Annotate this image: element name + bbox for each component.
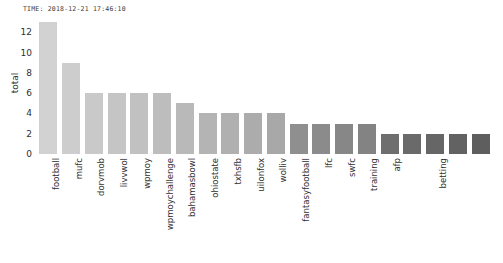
- x-axis-tick-slot: swfc: [333, 158, 356, 258]
- x-axis-tick-slot: wolliv: [265, 158, 288, 258]
- x-axis-tick-slot: [447, 158, 470, 258]
- x-axis-tick-slot: uilonfox: [242, 158, 265, 258]
- x-axis-tick-labels: footballmufcdorvmoblivvwolwpmoywpmoychal…: [37, 158, 492, 258]
- x-axis-tick-slot: ohiostate: [196, 158, 219, 258]
- bar: [267, 113, 285, 154]
- x-axis-tick-slot: [401, 158, 424, 258]
- y-axis-tick: 6: [26, 89, 32, 98]
- plot-area: 024681012: [37, 17, 492, 154]
- x-axis-tick-slot: txhsfb: [219, 158, 242, 258]
- y-axis-tick: 12: [21, 28, 32, 37]
- x-axis-tick-slot: mufc: [60, 158, 83, 258]
- x-axis-tick-slot: football: [37, 158, 60, 258]
- bar: [85, 93, 103, 154]
- bar: [312, 124, 330, 154]
- bar: [290, 124, 308, 154]
- bar: [39, 22, 57, 154]
- x-axis-tick-slot: training: [356, 158, 379, 258]
- bar: [335, 124, 353, 154]
- x-axis-tick-slot: livvwol: [105, 158, 128, 258]
- x-axis-tick-slot: wpmoychallenge: [151, 158, 174, 258]
- x-axis-tick-slot: lfc: [310, 158, 333, 258]
- x-axis-tick-slot: bahamasbowl: [174, 158, 197, 258]
- bar: [199, 113, 217, 154]
- bar-chart-figure: TIME: 2018-12-21 17:46:10 total 02468101…: [0, 0, 503, 263]
- timestamp-annotation: TIME: 2018-12-21 17:46:10: [23, 5, 126, 13]
- y-axis-tick: 10: [21, 48, 32, 57]
- y-axis-tick: 8: [26, 68, 32, 77]
- y-axis-tick: 4: [26, 109, 32, 118]
- x-axis-tick-slot: afp: [378, 158, 401, 258]
- x-axis-tick-slot: wpmoy: [128, 158, 151, 258]
- bar: [130, 93, 148, 154]
- x-axis-tick-slot: [469, 158, 492, 258]
- bar: [381, 134, 399, 154]
- bar: [426, 134, 444, 154]
- y-axis-label: total: [10, 60, 20, 106]
- x-axis-tick-slot: fantasyfootball: [287, 158, 310, 258]
- y-axis-tick: 2: [26, 129, 32, 138]
- bar: [153, 93, 171, 154]
- bar: [221, 113, 239, 154]
- y-axis-tick: 0: [26, 150, 32, 159]
- bar: [62, 63, 80, 154]
- bar: [108, 93, 126, 154]
- bar: [244, 113, 262, 154]
- bar: [403, 134, 421, 154]
- bar: [472, 134, 490, 154]
- bar: [358, 124, 376, 154]
- bar: [176, 103, 194, 154]
- bar: [449, 134, 467, 154]
- x-axis-tick-slot: betting: [424, 158, 447, 258]
- x-axis-tick-slot: dorvmob: [83, 158, 106, 258]
